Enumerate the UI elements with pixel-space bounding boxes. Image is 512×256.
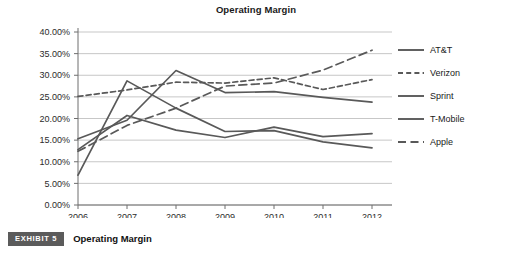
- x-tick-marks-group: [78, 205, 372, 209]
- legend-label-apple: Apple: [430, 137, 453, 147]
- y-tick-label: 25.00%: [39, 92, 70, 102]
- chart-legend: AT&TVerizonSprintT-MobileApple: [398, 45, 465, 147]
- y-tick-label: 35.00%: [39, 49, 70, 59]
- x-tick-label: 2011: [313, 212, 332, 218]
- chart-title: Operating Margin: [0, 4, 512, 15]
- exhibit-caption-text: Operating Margin: [73, 233, 152, 244]
- series-line-at-t: [78, 115, 372, 149]
- figure-operating-margin: Operating Margin 0.00%5.00%10.00%15.00%2…: [0, 0, 512, 256]
- gridlines-group: [78, 32, 392, 205]
- legend-label-t-mobile: T-Mobile: [430, 114, 465, 124]
- y-tick-label: 20.00%: [39, 114, 70, 124]
- exhibit-number-badge: EXHIBIT 5: [8, 232, 64, 246]
- x-axis-tick-labels: 2006200720082009201020112012: [68, 212, 382, 218]
- series-line-verizon: [78, 78, 372, 97]
- line-chart-svg: 0.00%5.00%10.00%15.00%20.00%25.00%30.00%…: [0, 18, 512, 218]
- y-tick-label: 40.00%: [39, 27, 70, 37]
- y-tick-marks-group: [74, 32, 78, 205]
- x-tick-label: 2007: [117, 212, 137, 218]
- y-tick-label: 0.00%: [44, 200, 70, 210]
- legend-label-sprint: Sprint: [430, 91, 454, 101]
- y-axis-tick-labels: 0.00%5.00%10.00%15.00%20.00%25.00%30.00%…: [39, 27, 70, 210]
- y-tick-label: 10.00%: [39, 157, 70, 167]
- y-tick-label: 15.00%: [39, 135, 70, 145]
- y-tick-label: 5.00%: [44, 179, 70, 189]
- data-series-group: [78, 50, 372, 175]
- x-tick-label: 2009: [215, 212, 235, 218]
- x-tick-label: 2010: [264, 212, 284, 218]
- x-tick-label: 2008: [166, 212, 186, 218]
- legend-label-at-t: AT&T: [430, 45, 453, 55]
- x-tick-label: 2006: [68, 212, 88, 218]
- legend-label-verizon: Verizon: [430, 68, 460, 78]
- y-tick-label: 30.00%: [39, 70, 70, 80]
- x-tick-label: 2012: [362, 212, 382, 218]
- exhibit-caption: EXHIBIT 5 Operating Margin: [8, 232, 152, 246]
- chart-plot-area: 0.00%5.00%10.00%15.00%20.00%25.00%30.00%…: [0, 18, 512, 218]
